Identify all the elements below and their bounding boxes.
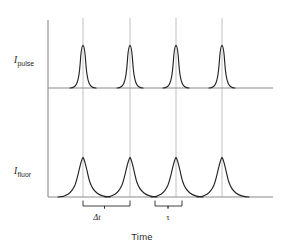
fluorescence-trace-group bbox=[58, 157, 249, 197]
fluor-trace-1 bbox=[58, 157, 110, 197]
y-axis-label-fluor-sub: fluor bbox=[17, 171, 31, 178]
pulse-trace-group bbox=[70, 45, 235, 88]
y-axis-label-pulse: Ipulse bbox=[14, 55, 34, 65]
guide-lines-group bbox=[83, 18, 222, 197]
tau-bracket-path bbox=[155, 201, 182, 209]
delta-t-label: Δt bbox=[84, 212, 110, 222]
timing-diagram-plot bbox=[0, 0, 284, 250]
delta-t-bracket bbox=[83, 201, 130, 209]
x-axis-label: Time bbox=[0, 231, 284, 242]
delta-t-bracket-path bbox=[83, 201, 130, 209]
fluor-trace-3 bbox=[151, 157, 203, 197]
figure-root: Ipulse Ifluor Δt τ Time bbox=[0, 0, 284, 250]
fluor-trace-2 bbox=[105, 157, 157, 197]
y-axis-label-fluor: Ifluor bbox=[14, 166, 31, 176]
y-axis-label-pulse-sub: pulse bbox=[17, 60, 34, 67]
tau-label: τ bbox=[156, 212, 180, 222]
tau-bracket bbox=[155, 201, 182, 209]
fluor-trace-4 bbox=[197, 157, 249, 197]
